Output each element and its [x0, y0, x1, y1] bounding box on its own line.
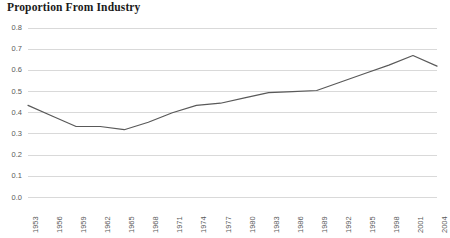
x-axis-tick-label: 1983: [272, 216, 281, 233]
x-axis-tick-label: 1962: [103, 216, 112, 233]
line-chart-svg: [0, 0, 450, 238]
chart-container: Proportion From Industry 0.80.70.60.50.4…: [0, 0, 450, 238]
gridlines: [28, 28, 437, 198]
y-axis-tick-label: 0.2: [0, 150, 22, 159]
x-axis-tick-label: 2001: [416, 216, 425, 233]
x-axis-tick-label: 1998: [392, 216, 401, 233]
x-axis-tick-label: 1974: [199, 216, 208, 233]
y-axis-tick-label: 0.8: [0, 23, 22, 32]
y-axis-tick-label: 0.4: [0, 108, 22, 117]
x-axis-tick-label: 1980: [248, 216, 257, 233]
x-axis-tick-label: 1992: [344, 216, 353, 233]
y-axis-tick-label: 0.1: [0, 171, 22, 180]
x-axis-tick-label: 1968: [151, 216, 160, 233]
x-axis-tick-label: 1965: [127, 216, 136, 233]
x-axis-tick-label: 1953: [31, 216, 40, 233]
data-series-line: [28, 56, 437, 130]
x-axis-tick-label: 1956: [55, 216, 64, 233]
y-axis-tick-label: 0.0: [0, 193, 22, 202]
y-axis-tick-label: 0.6: [0, 65, 22, 74]
x-axis-tick-label: 1995: [368, 216, 377, 233]
plot-area: 0.80.70.60.50.40.30.20.10.0 195319561959…: [0, 0, 450, 238]
x-axis-tick-label: 1971: [175, 216, 184, 233]
x-axis-tick-label: 1959: [79, 216, 88, 233]
x-axis-tick-label: 2004: [440, 216, 449, 233]
y-axis-tick-label: 0.7: [0, 44, 22, 53]
x-axis-tick-label: 1989: [320, 216, 329, 233]
x-axis-tick-label: 1977: [224, 216, 233, 233]
x-axis-tick-label: 1986: [296, 216, 305, 233]
y-axis-tick-label: 0.5: [0, 87, 22, 96]
y-axis-tick-label: 0.3: [0, 129, 22, 138]
